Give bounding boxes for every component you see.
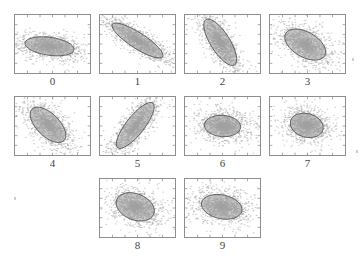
panel-axes-5 [99, 96, 176, 156]
panel-axes-3 [269, 14, 346, 74]
panel-axes-2 [184, 14, 261, 74]
scatter-panel-1: 1 [99, 14, 176, 92]
scan-speck-0 [14, 197, 16, 200]
panel-label-8: 8 [99, 239, 176, 251]
panel-plot-2 [185, 15, 260, 73]
panel-axes-4 [14, 96, 91, 156]
panel-plot-4 [15, 97, 90, 155]
panel-plot-7 [270, 97, 345, 155]
panel-plot-9 [185, 179, 260, 237]
panel-label-2: 2 [184, 75, 261, 87]
scatter-panel-5: 5 [99, 96, 176, 174]
panel-axes-1 [99, 14, 176, 74]
panel-axes-9 [184, 178, 261, 238]
panel-axes-7 [269, 96, 346, 156]
scatter-panel-figure: 0123456789 [0, 0, 360, 261]
panel-plot-5 [100, 97, 175, 155]
panel-plot-6 [185, 97, 260, 155]
panel-axes-6 [184, 96, 261, 156]
scatter-panel-8: 8 [99, 178, 176, 256]
panel-axes-0 [14, 14, 91, 74]
confidence-ellipse-5 [111, 98, 160, 154]
scan-speck-1 [352, 58, 354, 61]
panel-label-6: 6 [184, 157, 261, 169]
panel-axes-8 [99, 178, 176, 238]
panel-plot-1 [100, 15, 175, 73]
panel-label-3: 3 [269, 75, 346, 87]
panel-label-5: 5 [99, 157, 176, 169]
scatter-panel-3: 3 [269, 14, 346, 92]
scatter-panel-0: 0 [14, 14, 91, 92]
panel-plot-0 [15, 15, 90, 73]
panel-label-9: 9 [184, 239, 261, 251]
scatter-panel-9: 9 [184, 178, 261, 256]
scatter-panel-2: 2 [184, 14, 261, 92]
panel-label-1: 1 [99, 75, 176, 87]
scan-speck-2 [356, 150, 358, 153]
panel-plot-3 [270, 15, 345, 73]
panel-label-7: 7 [269, 157, 346, 169]
panel-label-4: 4 [14, 157, 91, 169]
scatter-panel-7: 7 [269, 96, 346, 174]
panel-label-0: 0 [14, 75, 91, 87]
scatter-panel-6: 6 [184, 96, 261, 174]
scatter-panel-4: 4 [14, 96, 91, 174]
panel-plot-8 [100, 179, 175, 237]
